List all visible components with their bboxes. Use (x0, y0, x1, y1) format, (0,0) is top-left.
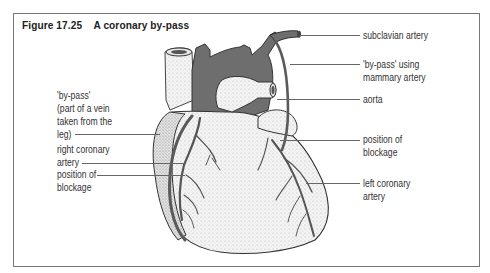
leader-line (277, 99, 360, 100)
leader-line (290, 64, 360, 65)
leader-line (280, 140, 360, 141)
leader-line (300, 35, 360, 36)
vena-cava (165, 48, 194, 110)
leader-line (75, 134, 160, 135)
leader-line (306, 183, 360, 184)
leader-line (97, 175, 185, 176)
aorta (192, 31, 301, 120)
leader-line (82, 163, 186, 164)
